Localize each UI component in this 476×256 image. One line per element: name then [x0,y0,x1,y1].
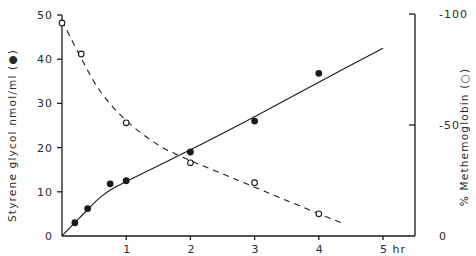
styrene-glycol-curve [62,48,383,236]
methemoglobin-point [316,211,322,217]
y-tick-label-left: 0 [45,230,53,243]
y-tick-label-left: 50 [37,9,53,22]
axis-labels: 0102030405012345 hr0-50-100Styrene glyco… [6,8,470,256]
methemoglobin-point [78,51,84,57]
methemoglobin-curve [62,21,341,223]
x-tick-label: 3 [252,243,260,256]
styrene-glycol-point [251,118,258,125]
y-axis-title-left: Styrene glycol nmol/ml (●) [6,49,18,222]
data-points [59,20,322,226]
y-tick-label-right: -100 [439,8,468,21]
y-tick-label-left: 10 [37,186,53,199]
methemoglobin-point [59,20,65,26]
methemoglobin-point [188,160,194,166]
fit-curves [62,21,383,236]
x-tick-label: 1 [123,243,131,256]
styrene-glycol-point [187,149,194,156]
methemoglobin-point [252,180,258,186]
styrene-glycol-point [107,180,114,187]
styrene-glycol-point [123,177,130,184]
y-axis-title-right: % Methemoglobin (○) [458,68,470,206]
methemoglobin-point [123,120,129,126]
x-tick-label: 4 [316,243,324,256]
y-tick-label-left: 40 [37,53,53,66]
chart: 0102030405012345 hr0-50-100Styrene glyco… [0,0,476,256]
y-tick-label-right: -50 [439,119,460,132]
styrene-glycol-point [315,70,322,77]
styrene-glycol-point [71,219,78,226]
x-tick-label: 5 hr [380,243,406,256]
y-tick-label-left: 20 [37,142,53,155]
x-tick-label: 2 [187,243,195,256]
styrene-glycol-point [84,205,91,212]
y-tick-label-right: 0 [439,230,447,243]
y-tick-label-left: 30 [37,97,53,110]
